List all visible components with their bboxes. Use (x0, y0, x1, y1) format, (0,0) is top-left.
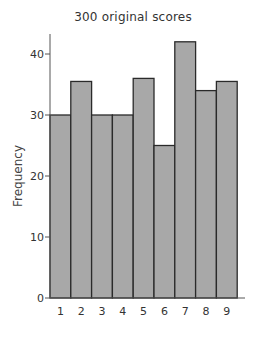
y-tick-label: 40 (30, 48, 44, 61)
y-tick-label: 0 (37, 292, 44, 305)
histogram-bar (133, 78, 154, 298)
x-tick-label: 6 (161, 305, 168, 318)
x-tick-label: 1 (57, 305, 64, 318)
x-tick-label: 4 (119, 305, 126, 318)
histogram-bar (154, 146, 175, 299)
histogram-bar (71, 81, 92, 298)
histogram-bar (196, 91, 217, 298)
histogram: 123456789010203040 (0, 0, 266, 343)
y-tick-label: 20 (30, 170, 44, 183)
histogram-bar (50, 115, 71, 298)
x-tick-label: 5 (140, 305, 147, 318)
histogram-bar (175, 42, 196, 298)
histogram-bar (216, 81, 237, 298)
histogram-bar (112, 115, 133, 298)
x-tick-label: 9 (223, 305, 230, 318)
x-tick-label: 2 (78, 305, 85, 318)
y-tick-label: 30 (30, 109, 44, 122)
x-tick-label: 3 (99, 305, 106, 318)
y-tick-label: 10 (30, 231, 44, 244)
x-tick-label: 8 (203, 305, 210, 318)
x-tick-label: 7 (182, 305, 189, 318)
histogram-bar (92, 115, 113, 298)
